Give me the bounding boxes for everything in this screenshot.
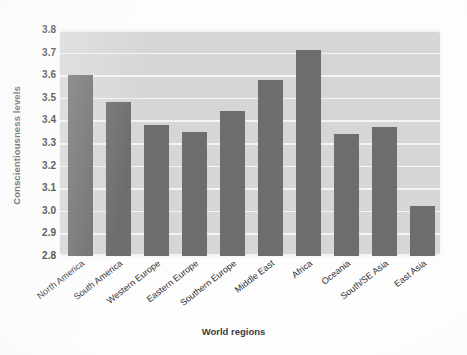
y-tick-label: 3.3 bbox=[28, 137, 56, 148]
bars-group bbox=[60, 30, 440, 256]
x-axis-title: World regions bbox=[0, 326, 467, 337]
y-tick-label: 3.1 bbox=[28, 182, 56, 193]
y-tick-label: 3.2 bbox=[28, 160, 56, 171]
y-tick-label: 3.5 bbox=[28, 92, 56, 103]
bar bbox=[220, 111, 245, 256]
y-tick-label: 3.8 bbox=[28, 24, 56, 35]
x-tick-label-text: Oceania bbox=[320, 258, 353, 287]
bar bbox=[182, 132, 207, 256]
plot-area bbox=[60, 30, 440, 256]
bar bbox=[106, 102, 131, 256]
bar bbox=[334, 134, 359, 256]
bar bbox=[296, 50, 321, 256]
x-axis-tick-labels: North AmericaSouth AmericaWestern Europe… bbox=[60, 258, 440, 324]
y-axis-tick-labels: 3.83.73.63.53.43.33.23.13.02.92.8 bbox=[22, 30, 56, 256]
bar bbox=[144, 125, 169, 256]
bar bbox=[410, 206, 435, 256]
x-tick-label-text: East Asia bbox=[392, 258, 428, 289]
y-tick-label: 2.8 bbox=[28, 250, 56, 261]
y-tick-label: 3.7 bbox=[28, 47, 56, 58]
bar bbox=[258, 80, 283, 256]
y-tick-label: 3.6 bbox=[28, 69, 56, 80]
bar-chart-figure: Conscientiousness levels 3.83.73.63.53.4… bbox=[0, 0, 467, 355]
y-tick-label: 3.4 bbox=[28, 114, 56, 125]
y-tick-label: 3.0 bbox=[28, 205, 56, 216]
bar bbox=[68, 75, 93, 256]
y-tick-label: 2.9 bbox=[28, 227, 56, 238]
bar bbox=[372, 127, 397, 256]
x-tick-label-text: Africa bbox=[290, 258, 314, 280]
y-axis-title-text: Conscientiousness levels bbox=[11, 86, 22, 205]
